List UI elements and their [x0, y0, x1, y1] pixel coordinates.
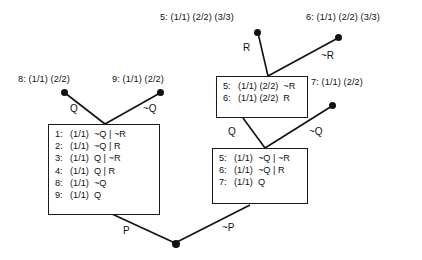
clause-row: 4:(1/1)Q | R [55, 165, 154, 177]
edge-label-q: Q [70, 103, 78, 114]
clause-box-left: 1:(1/1)~Q | ~R 2:(1/1)~Q | R 3:(1/1)Q | … [48, 124, 160, 215]
leaf-label-5-top: 5: (1/1) (2/2) (3/3) [160, 12, 234, 22]
node-dot-root [172, 240, 180, 248]
clause-index: 1: [55, 128, 66, 140]
edge-label-not-q-2: ~Q [309, 126, 323, 137]
node-dot-leaf-7 [329, 102, 336, 109]
clause-literals: ~Q | ~R [258, 152, 290, 164]
clause-support: (1/1) (2/2) [238, 92, 278, 104]
clause-index: 7: [219, 176, 230, 188]
clause-support: (1/1) [70, 152, 89, 164]
clause-index: 5: [219, 152, 230, 164]
clause-support: (1/1) [234, 176, 253, 188]
clause-literals: ~Q | R [258, 164, 285, 176]
clause-row: 9:(1/1)Q [55, 189, 154, 201]
clause-row: 3:(1/1)Q | ~R [55, 152, 154, 164]
clause-support: (1/1) [234, 164, 253, 176]
edge-label-not-p: ~P [222, 222, 235, 233]
clause-index: 6: [223, 92, 234, 104]
clause-support: (1/1) [70, 189, 89, 201]
node-dot-leaf-8 [61, 89, 68, 96]
clause-row: 2:(1/1)~Q | R [55, 140, 154, 152]
leaf-label-6-top: 6: (1/1) (2/2) (3/3) [306, 12, 380, 22]
clause-index: 8: [55, 177, 66, 189]
edge-label-p: P [123, 225, 130, 236]
clause-support: (1/1) [234, 152, 253, 164]
figure-canvas: 8: (1/1) (2/2) 9: (1/1) (2/2) 5: (1/1) (… [0, 0, 422, 260]
clause-row: 8:(1/1)~Q [55, 177, 154, 189]
edge-not-p [175, 205, 250, 243]
edge-label-not-r: ~R [321, 50, 334, 61]
clause-literals: ~Q | ~R [94, 128, 126, 140]
edge-p [112, 214, 175, 243]
clause-row: 7:(1/1)Q [219, 176, 302, 188]
node-dot-leaf-6 [335, 34, 342, 41]
clause-index: 2: [55, 140, 66, 152]
edge-r [258, 33, 268, 76]
node-dot-leaf-9 [157, 89, 164, 96]
clause-index: 5: [223, 80, 234, 92]
clause-row: 5:(1/1)~Q | ~R [219, 152, 302, 164]
clause-literals: ~R [283, 80, 295, 92]
clause-support: (1/1) [70, 128, 89, 140]
leaf-label-9: 9: (1/1) (2/2) [112, 74, 164, 84]
clause-literals: Q [94, 189, 101, 201]
node-dot-leaf-5 [254, 29, 261, 36]
clause-literals: R [283, 92, 290, 104]
clause-literals: Q [258, 176, 265, 188]
clause-support: (1/1) (2/2) [238, 80, 278, 92]
edge-label-q-2: Q [228, 126, 236, 137]
clause-literals: Q | R [94, 165, 115, 177]
edge-label-r: R [243, 42, 250, 53]
edge-q2 [243, 118, 265, 148]
clause-box-upper-right: 5:(1/1) (2/2)~R 6:(1/1) (2/2)R [216, 76, 308, 118]
clause-literals: Q | ~R [94, 152, 121, 164]
clause-row: 6:(1/1)~Q | R [219, 164, 302, 176]
clause-row: 5:(1/1) (2/2)~R [223, 80, 302, 92]
clause-index: 6: [219, 164, 230, 176]
clause-support: (1/1) [70, 140, 89, 152]
leaf-label-8: 8: (1/1) (2/2) [18, 74, 70, 84]
leaf-label-7: 7: (1/1) (2/2) [311, 77, 363, 87]
edge-label-not-q: ~Q [143, 103, 157, 114]
clause-index: 4: [55, 165, 66, 177]
clause-index: 3: [55, 152, 66, 164]
clause-row: 1:(1/1)~Q | ~R [55, 128, 154, 140]
clause-support: (1/1) [70, 165, 89, 177]
clause-box-lower-right: 5:(1/1)~Q | ~R 6:(1/1)~Q | R 7:(1/1)Q [212, 148, 308, 204]
clause-literals: ~Q | R [94, 140, 121, 152]
clause-support: (1/1) [70, 177, 89, 189]
clause-row: 6:(1/1) (2/2)R [223, 92, 302, 104]
clause-literals: ~Q [94, 177, 107, 189]
clause-index: 9: [55, 189, 66, 201]
